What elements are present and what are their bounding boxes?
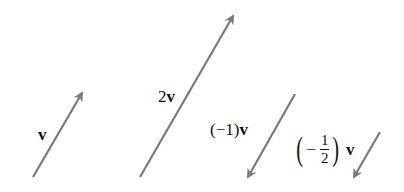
vector-neghalfv-arrow bbox=[354, 132, 380, 177]
vector-scaling-diagram: v 2v (−1)v (−12) v bbox=[0, 0, 404, 192]
label-neg1v: (−1)v bbox=[210, 121, 248, 138]
label-2v: 2v bbox=[158, 88, 175, 105]
label-neghalfv-vector: v bbox=[346, 140, 355, 159]
fraction-numerator: 1 bbox=[320, 133, 330, 150]
label-neg1v-vector: v bbox=[239, 120, 248, 139]
label-neghalfv-minus: − bbox=[306, 140, 316, 159]
vector-neg1v-arrow bbox=[248, 94, 295, 177]
label-neghalfv-fraction: 12 bbox=[320, 133, 330, 166]
label-neg1v-coefficient: (−1) bbox=[210, 120, 239, 139]
fraction-denominator: 2 bbox=[321, 150, 329, 166]
label-v: v bbox=[38, 126, 47, 143]
label-v-vector: v bbox=[38, 125, 47, 144]
vector-2v-arrow bbox=[140, 16, 233, 177]
label-neghalfv: (−12) v bbox=[294, 132, 355, 166]
label-neghalfv-close-paren: ) bbox=[333, 132, 340, 166]
label-2v-coefficient: 2 bbox=[158, 87, 167, 106]
label-2v-vector: v bbox=[167, 87, 176, 106]
label-neghalfv-open-paren: ( bbox=[296, 132, 303, 166]
